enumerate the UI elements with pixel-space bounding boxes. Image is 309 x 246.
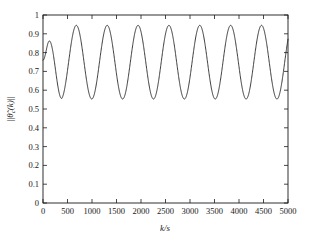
- x-tick-label: 5000: [280, 206, 297, 216]
- y-axis-title-argument: (k): [5, 100, 15, 110]
- y-tick-label: 0.7: [28, 66, 39, 76]
- x-tick-label: 4000: [231, 206, 248, 216]
- x-tick-label: 3500: [206, 206, 223, 216]
- line-chart: 0500100015002000250030003500400045005000…: [0, 0, 309, 246]
- y-axis-tick-labels: 00.10.20.30.40.50.60.70.80.91: [28, 10, 39, 208]
- y-tick-label: 0.6: [28, 85, 39, 95]
- y-tick-label: 0.9: [28, 29, 39, 39]
- x-tick-label: 2000: [133, 206, 150, 216]
- y-axis-title-bars-right: ||: [5, 97, 15, 101]
- y-tick-label: 0.8: [28, 48, 39, 58]
- x-tick-label: 1500: [108, 206, 125, 216]
- x-axis-tick-labels: 0500100015002000250030003500400045005000: [41, 206, 297, 216]
- x-tick-label: 4500: [255, 206, 272, 216]
- y-tick-label: 0.3: [28, 142, 39, 152]
- y-tick-label: 0.5: [28, 104, 39, 114]
- svg-text:||θ̃c(k)||: ||θ̃c(k)||: [5, 97, 16, 122]
- y-tick-label: 0.2: [28, 160, 39, 170]
- y-tick-label: 0.4: [28, 123, 39, 133]
- y-axis-title: ||θ̃c(k)||: [5, 97, 16, 122]
- y-tick-label: 1: [35, 10, 39, 20]
- x-tick-label: 1000: [84, 206, 101, 216]
- x-axis-title: k/s: [160, 223, 170, 233]
- x-tick-label: 2500: [157, 206, 174, 216]
- x-tick-label: 500: [61, 206, 74, 216]
- y-tick-label: 0: [35, 198, 39, 208]
- plot-background: [43, 15, 288, 203]
- figure-container: 0500100015002000250030003500400045005000…: [0, 0, 309, 246]
- x-tick-label: 3000: [182, 206, 199, 216]
- y-tick-label: 0.1: [28, 179, 39, 189]
- x-tick-label: 0: [41, 206, 45, 216]
